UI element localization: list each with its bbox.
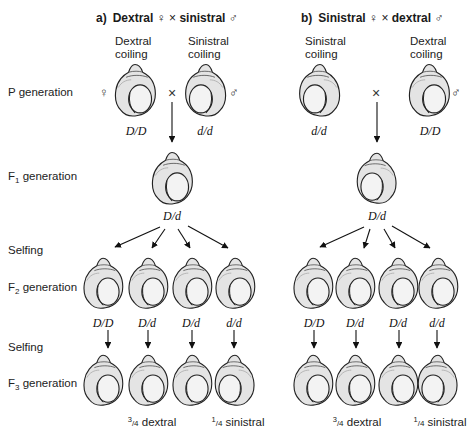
panel-a-arrows — [108, 102, 234, 348]
diagram-arrows-layer — [0, 0, 469, 434]
panel-b-arrows — [314, 102, 437, 348]
panel-a-shells — [84, 65, 255, 406]
panel-b-shells — [294, 65, 458, 406]
